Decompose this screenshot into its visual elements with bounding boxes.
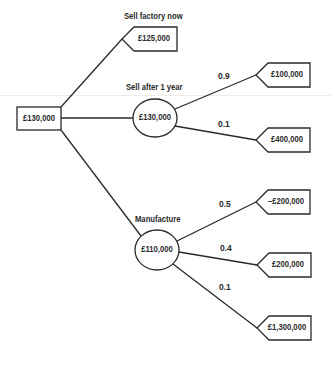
branch-label-sell-now: Sell factory now <box>124 11 183 21</box>
prob-0-4: 0.4 <box>220 243 232 253</box>
prob-0-1-sell-later: 0.1 <box>218 119 230 129</box>
chance-value-sell-later: £130,000 <box>135 112 175 122</box>
terminal-value-minus200000: –£200,000 <box>264 196 307 206</box>
tree-lines <box>0 0 331 365</box>
prob-0-9: 0.9 <box>218 71 230 81</box>
prob-0-5: 0.5 <box>219 199 231 209</box>
terminal-value-200000: £200,000 <box>267 259 308 269</box>
branch-label-manufacture: Manufacture <box>135 214 180 224</box>
chance-value-manufacture: £110,000 <box>137 244 177 254</box>
terminal-value-sell-now: £125,000 <box>134 33 174 43</box>
terminal-value-400000: £400,000 <box>266 134 307 144</box>
branch-label-sell-later: Sell after 1 year <box>126 82 183 92</box>
terminal-value-100000: £100,000 <box>266 69 307 79</box>
root-value: £130,000 <box>19 113 59 123</box>
prob-0-1-manufacture: 0.1 <box>219 282 231 292</box>
terminal-value-1300000: £1,300,000 <box>265 322 308 332</box>
